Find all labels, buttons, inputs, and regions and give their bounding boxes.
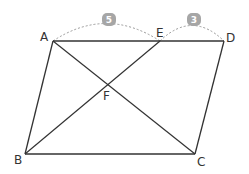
point-label-d: D xyxy=(226,31,235,45)
diagram-canvas: 5 3 A E D F B C xyxy=(0,0,249,174)
arc-ae xyxy=(53,24,160,42)
point-label-e: E xyxy=(156,26,164,40)
point-label-c: C xyxy=(197,155,205,169)
point-label-b: B xyxy=(14,153,22,167)
arc-ed xyxy=(160,26,224,42)
measure-badge-ed: 3 xyxy=(187,13,201,26)
svg-text:3: 3 xyxy=(191,15,197,25)
geometry-diagram: 5 3 A E D F B C xyxy=(0,0,249,174)
point-label-a: A xyxy=(40,30,49,44)
segment-ba xyxy=(25,41,53,154)
segment-dc xyxy=(195,41,224,154)
point-label-f: F xyxy=(103,89,110,103)
segment-ac xyxy=(53,41,195,154)
measure-badge-ae: 5 xyxy=(102,13,116,26)
svg-text:5: 5 xyxy=(106,15,112,25)
segment-be xyxy=(25,41,160,154)
